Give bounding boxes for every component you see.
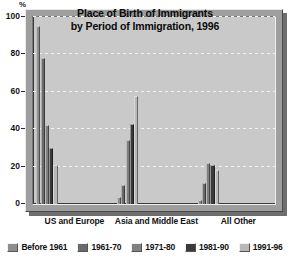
y-axis-tick-label: 100 [0,12,20,20]
y-axis-tick-label: 80 [0,49,20,57]
chart-title: Place of Birth of Immigrants by Period o… [71,7,219,32]
legend-label: 1991-96 [253,242,283,252]
legend-item: 1971-80 [131,242,175,252]
y-axis-tick-label: 60 [0,87,20,95]
y-axis-tick-label: 20 [0,162,20,170]
legend-item: 1991-96 [239,242,283,252]
bar [53,165,57,204]
legend-label: 1961-70 [91,242,121,252]
y-axis-tick-label: 40 [0,124,20,132]
legend-swatch [131,243,142,252]
x-axis-category-label: US and Europe [45,216,105,226]
plot-frame [25,9,283,212]
plot-area [33,17,275,204]
chart-title-line-1: Place of Birth of Immigrants [71,7,219,20]
y-axis: 020406080100 [0,9,25,212]
y-axis-unit-label: % [19,1,26,9]
x-axis-category-labels: US and EuropeAsia and Middle EastAll Oth… [25,216,283,230]
chart-legend: Before 19611961-701971-801981-901991-96 [0,238,290,256]
legend-label: 1981-90 [199,242,229,252]
bar [215,170,219,204]
legend-item: 1981-90 [185,242,229,252]
plot-inner-panel [32,16,276,205]
legend-swatch [77,243,88,252]
y-axis-tick-label: 0 [0,199,20,207]
legend-item: 1961-70 [77,242,121,252]
x-axis-category-label: Asia and Middle East [115,216,198,226]
legend-swatch [185,243,196,252]
legend-swatch [239,243,250,252]
legend-item: Before 1961 [7,242,67,252]
bar-chart: % 020406080100 Place of Birth of Immigra… [0,0,290,259]
legend-swatch [7,243,18,252]
bar-group [194,17,275,204]
bar-group [33,17,114,204]
bar [134,96,138,204]
x-axis-category-label: All Other [221,216,256,226]
bar-group [114,17,195,204]
chart-title-line-2: by Period of Immigration, 1996 [71,20,219,33]
legend-label: Before 1961 [21,242,67,252]
legend-label: 1971-80 [145,242,175,252]
